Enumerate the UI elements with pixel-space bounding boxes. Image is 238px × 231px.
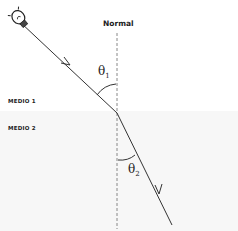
incident-arrow-icon: [61, 57, 70, 65]
medium-2-label: MEDIO 2: [8, 125, 36, 131]
normal-label: Normal: [103, 19, 134, 28]
medium-1-label: MEDIO 1: [8, 98, 36, 104]
theta-subscript: 2: [135, 170, 139, 178]
angle-arc-1: [97, 84, 116, 95]
refracted-ray: [117, 113, 172, 225]
refraction-diagram: Normal MEDIO 1 MEDIO 2 θ1 θ2: [0, 0, 238, 231]
light-bulb-icon: [8, 7, 31, 31]
angle-refraction-label: θ2: [128, 162, 140, 178]
ray-diagram-svg: [0, 0, 238, 231]
angle-incidence-label: θ1: [98, 64, 110, 80]
angle-arc-2: [118, 155, 135, 160]
theta-subscript: 1: [105, 72, 109, 80]
